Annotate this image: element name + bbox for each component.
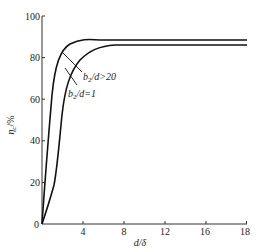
y-tick-40: 40 [30,135,40,146]
curve-b2d-gt-20 [42,39,247,224]
y-axis-label: ηc/% [5,115,18,134]
y-tick-80: 80 [30,52,40,63]
x-tick-18: 18 [240,226,250,237]
annotation-b2d-eq-1: b2/d=1 [68,88,96,101]
x-tick-8: 8 [122,226,127,237]
x-tick-16: 16 [200,226,210,237]
curve-b2d-eq-1 [42,45,247,224]
svg-text:ηc/%: ηc/% [5,115,18,134]
y-tick-100: 100 [25,11,40,22]
annotation-b2d-gt-20: b2/d>20 [83,71,116,84]
y-tick-0: 0 [34,219,39,230]
x-tick-4: 4 [81,226,86,237]
annotation-leader-2 [65,68,77,85]
chart: 100 80 60 40 20 0 4 8 12 16 18 d/δ ηc/% … [0,0,259,248]
y-tick-60: 60 [30,94,40,105]
x-axis-label: d/δ [134,237,147,248]
y-tick-20: 20 [30,177,40,188]
x-tick-12: 12 [160,226,170,237]
